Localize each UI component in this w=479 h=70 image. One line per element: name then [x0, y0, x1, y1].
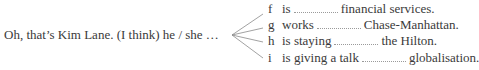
- item-letter: f: [268, 1, 282, 17]
- item-letter: i: [268, 50, 282, 66]
- fill-in-blank[interactable]: [294, 2, 338, 13]
- exercise-item: his stayingthe Hilton.: [268, 33, 437, 49]
- exercise-item: fisfinancial services.: [268, 1, 435, 17]
- item-completion: globalisation.: [409, 50, 479, 65]
- item-letter: g: [268, 17, 282, 33]
- item-completion: financial services.: [341, 1, 435, 16]
- fill-in-blank[interactable]: [334, 34, 378, 45]
- exercise-item: gworksChase-Manhattan.: [268, 17, 459, 33]
- item-completion: the Hilton.: [381, 33, 437, 48]
- exercise-item: iis giving a talkglobalisation.: [268, 50, 479, 66]
- item-verb: works: [282, 17, 314, 32]
- fill-in-blank[interactable]: [362, 51, 406, 62]
- item-verb: is giving a talk: [282, 50, 359, 65]
- item-verb: is staying: [282, 33, 331, 48]
- item-letter: h: [268, 33, 282, 49]
- item-verb: is: [282, 1, 291, 16]
- fill-in-blank[interactable]: [317, 18, 361, 29]
- item-completion: Chase-Manhattan.: [364, 17, 459, 32]
